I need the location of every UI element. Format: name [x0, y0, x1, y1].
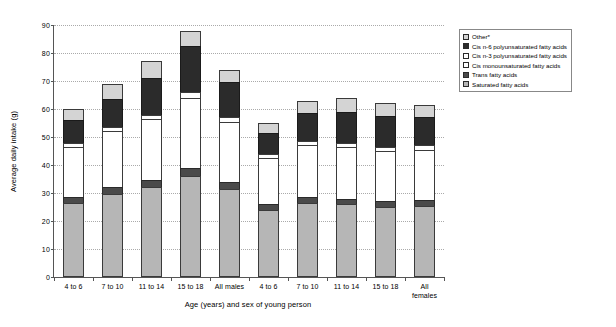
bar-segment-trans: [141, 180, 162, 187]
y-axis-tick-label: 70: [42, 78, 50, 85]
bar-stack: [258, 123, 279, 277]
bar-segment-other: [63, 109, 84, 120]
y-axis-tick-mark: [51, 53, 54, 54]
y-axis-tick-mark: [51, 137, 54, 138]
bar-stack: [297, 101, 318, 277]
bar-stack: [180, 31, 201, 277]
plot-area: 01020304050607080904 to 67 to 1011 to 14…: [53, 25, 444, 278]
bar-segment-other: [102, 84, 123, 99]
legend-label: Cis n-3 polyunsaturated fatty acids: [472, 52, 567, 59]
legend-swatch-other-icon: [463, 34, 469, 40]
legend-item-saturated: Saturated fatty acids: [463, 81, 567, 88]
y-axis-tick-label: 40: [42, 162, 50, 169]
bar-segment-trans: [219, 182, 240, 189]
bar-segment-other: [180, 31, 201, 46]
y-axis-tick-mark: [51, 109, 54, 110]
x-axis-tick-mark: [327, 277, 328, 281]
legend-item-other: Other*: [463, 33, 567, 40]
y-axis-tick-label: 10: [42, 246, 50, 253]
legend-swatch-trans-icon: [463, 72, 469, 78]
bar-segment-saturated: [375, 207, 396, 277]
x-axis-tick-label: 4 to 6: [259, 283, 277, 292]
legend-label: Cis monounsaturated fatty acids: [472, 62, 560, 69]
bar-segment-cis-n6: [141, 78, 162, 114]
y-axis-tick-mark: [51, 81, 54, 82]
bar-stack: [141, 61, 162, 277]
y-axis-tick-mark: [51, 221, 54, 222]
gridline: [54, 81, 444, 82]
x-axis-tick-label: 4 to 6: [64, 283, 82, 292]
bar-stack: [102, 84, 123, 277]
legend-item-trans: Trans fatty acids: [463, 71, 567, 78]
bar-segment-saturated: [141, 187, 162, 277]
bar-segment-cis-n6: [375, 116, 396, 147]
y-axis-title: Average daily intake (g): [8, 25, 20, 277]
fatty-acid-intake-chart: Average daily intake (g) 010203040506070…: [0, 0, 616, 327]
bar-stack: [375, 103, 396, 277]
x-axis-tick-label: 7 to 10: [296, 283, 318, 292]
x-axis-tick-mark: [93, 277, 94, 281]
x-axis-tick-mark: [366, 277, 367, 281]
bar-segment-cis-mono: [63, 147, 84, 197]
y-axis-tick-mark: [51, 193, 54, 194]
bar-stack: [63, 109, 84, 277]
y-axis-tick-label: 60: [42, 106, 50, 113]
legend-label: Trans fatty acids: [472, 71, 517, 78]
x-axis-tick-label: All females: [408, 283, 442, 300]
chart-legend: Other*Cis n-6 polyunsaturated fatty acid…: [459, 29, 572, 92]
bar-segment-saturated: [180, 176, 201, 277]
x-axis-tick-mark: [132, 277, 133, 281]
legend-swatch-cis-n6-icon: [463, 43, 469, 49]
bar-stack: [219, 70, 240, 277]
x-axis-tick-mark: [249, 277, 250, 281]
legend-label: Other*: [472, 33, 490, 40]
x-axis-tick-mark: [444, 277, 445, 281]
bar-segment-other: [219, 70, 240, 83]
bar-segment-saturated: [297, 203, 318, 277]
legend-label: Cis n-6 polyunsaturated fatty acids: [472, 43, 567, 50]
x-axis-tick-label: All males: [215, 283, 244, 292]
bar-segment-other: [336, 98, 357, 112]
x-axis-tick-label: 11 to 14: [334, 283, 360, 292]
bar-segment-cis-mono: [180, 98, 201, 168]
bar-segment-cis-n6: [102, 99, 123, 127]
bar-segment-cis-n6: [63, 120, 84, 142]
bar-segment-saturated: [219, 189, 240, 277]
bar-segment-saturated: [102, 194, 123, 277]
x-axis-tick-mark: [171, 277, 172, 281]
x-axis-tick-mark: [288, 277, 289, 281]
bar-segment-cis-mono: [297, 145, 318, 197]
bar-segment-other: [414, 105, 435, 118]
legend-item-cis-mono: Cis monounsaturated fatty acids: [463, 62, 567, 69]
x-axis-tick-label: 7 to 10: [101, 283, 123, 292]
bar-stack: [414, 105, 435, 277]
legend-item-cis-n6: Cis n-6 polyunsaturated fatty acids: [463, 43, 567, 50]
x-axis-tick-mark: [405, 277, 406, 281]
legend-label: Saturated fatty acids: [472, 81, 528, 88]
bar-stack: [336, 98, 357, 277]
gridline: [54, 53, 444, 54]
y-axis-tick-label: 0: [46, 274, 50, 281]
bar-segment-other: [375, 103, 396, 116]
bar-segment-other: [141, 61, 162, 78]
x-axis-title: Age (years) and sex of young person: [53, 300, 443, 309]
bar-segment-saturated: [336, 204, 357, 277]
y-axis-tick-mark: [51, 165, 54, 166]
x-axis-tick-label: 15 to 18: [372, 283, 398, 292]
bar-segment-trans: [180, 168, 201, 176]
bar-segment-cis-n6: [219, 82, 240, 117]
bar-segment-cis-mono: [102, 131, 123, 187]
bar-segment-cis-n6: [336, 112, 357, 143]
bar-segment-other: [297, 101, 318, 114]
bar-segment-cis-mono: [375, 151, 396, 201]
bar-segment-cis-mono: [258, 158, 279, 204]
legend-swatch-cis-mono-icon: [463, 62, 469, 68]
y-axis-tick-label: 20: [42, 218, 50, 225]
legend-swatch-cis-n3-icon: [463, 53, 469, 59]
y-axis-tick-mark: [51, 249, 54, 250]
bar-segment-cis-n6: [297, 113, 318, 141]
y-axis-tick-label: 50: [42, 134, 50, 141]
bar-segment-cis-mono: [141, 119, 162, 181]
bar-segment-cis-n6: [414, 117, 435, 145]
x-axis-tick-label: 15 to 18: [177, 283, 203, 292]
